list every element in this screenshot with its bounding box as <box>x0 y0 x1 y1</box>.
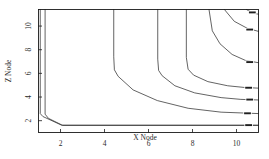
x-tick-label: 2 <box>59 139 63 148</box>
plot-canvas: 246810 246810 X Node Z Node <box>0 0 269 159</box>
plot-frame <box>39 10 259 133</box>
plot-frame-group <box>39 10 259 133</box>
y-axis-tick-labels: 246810 <box>24 22 33 122</box>
contour-label-2 <box>246 29 253 31</box>
y-tick-label: 2 <box>24 119 33 123</box>
x-tick-label: 4 <box>103 139 107 148</box>
contour-2 <box>45 10 258 126</box>
contour-label-6 <box>244 112 251 114</box>
contour-label-4 <box>245 87 252 89</box>
y-axis-title: Z Node <box>4 59 13 82</box>
contour-6 <box>209 10 259 63</box>
contour-label-3 <box>246 61 253 63</box>
y-tick-label: 4 <box>24 95 33 99</box>
contour-label-5 <box>246 99 253 101</box>
contour-4 <box>158 10 259 100</box>
contour-label-1 <box>249 11 256 13</box>
contour-plot-figure: 246810 246810 X Node Z Node <box>0 0 269 159</box>
contour-5 <box>186 10 258 89</box>
x-tick-label: 8 <box>191 139 195 148</box>
y-tick-label: 10 <box>24 22 33 30</box>
contour-1 <box>40 10 258 126</box>
plot-contours <box>40 10 258 126</box>
x-axis-title: X Node <box>133 133 157 142</box>
y-tick-label: 6 <box>24 71 33 75</box>
contour-label-7 <box>245 124 252 126</box>
x-axis-ticks <box>61 129 237 133</box>
contour-labels <box>243 11 256 127</box>
y-tick-label: 8 <box>24 48 33 52</box>
x-tick-label: 10 <box>233 139 241 148</box>
